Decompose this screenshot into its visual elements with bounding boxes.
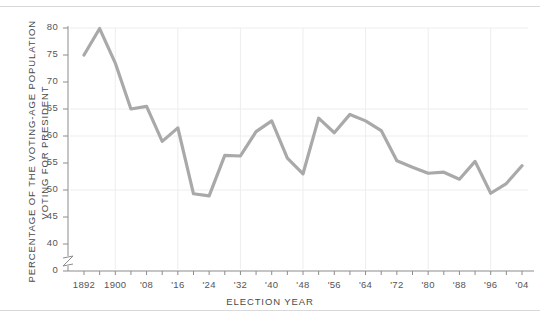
y-axis-title-line-2: VOTING FOR PRESIDENT — [38, 23, 51, 283]
tick-marks — [63, 28, 522, 275]
y-axis-title: PERCENTAGE OF THE VOTING-AGE POPULATION … — [26, 23, 51, 283]
y-axis-title-line-1: PERCENTAGE OF THE VOTING-AGE POPULATION — [26, 23, 39, 283]
chart-figure: 0404550556065707580 18921900'08'16'24'32… — [0, 0, 540, 331]
gridlines — [70, 28, 528, 269]
axis-break-marker — [63, 256, 73, 266]
x-axis-title: ELECTION YEAR — [0, 296, 540, 307]
axis-lines — [68, 26, 534, 271]
x-tick-label: '04 — [502, 279, 540, 290]
